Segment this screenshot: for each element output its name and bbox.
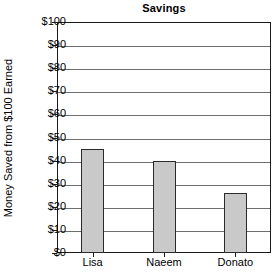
y-axis-tick-label: $80 bbox=[14, 62, 66, 73]
x-axis-tick-label: Donato bbox=[200, 256, 271, 269]
gridline bbox=[58, 139, 270, 140]
y-axis-tick-mark bbox=[52, 230, 57, 231]
bar-chart: Savings Money Saved from $100 Earned $10… bbox=[0, 0, 279, 275]
y-axis-tick-mark bbox=[52, 91, 57, 92]
y-axis-tick-label: $100 bbox=[14, 16, 66, 27]
chart-title: Savings bbox=[57, 1, 271, 15]
x-axis-tick-label: Naeem bbox=[128, 256, 199, 269]
y-axis-tick-mark bbox=[52, 138, 57, 139]
bar bbox=[224, 193, 247, 253]
gridline bbox=[58, 92, 270, 93]
y-axis-tick-mark bbox=[52, 207, 57, 208]
y-axis-tick-mark bbox=[52, 68, 57, 69]
gridline bbox=[58, 46, 270, 47]
y-axis-tick-mark bbox=[52, 45, 57, 46]
gridline bbox=[58, 115, 270, 116]
y-axis-tick-mark bbox=[52, 184, 57, 185]
x-axis-tick-mark bbox=[164, 253, 165, 257]
y-axis-tick-mark bbox=[52, 22, 57, 23]
y-axis-tick-mark bbox=[52, 253, 57, 254]
y-axis-tick-mark bbox=[52, 114, 57, 115]
y-axis-tick-label: $40 bbox=[14, 155, 66, 166]
x-axis-tick-mark bbox=[235, 253, 236, 257]
bar bbox=[81, 149, 104, 253]
y-axis-tick-label: $70 bbox=[14, 85, 66, 96]
y-axis-tick-label: $30 bbox=[14, 178, 66, 189]
x-axis-tick-label: Lisa bbox=[57, 256, 128, 269]
y-axis-title: Money Saved from $100 Earned bbox=[2, 59, 14, 217]
bar bbox=[153, 161, 176, 253]
y-axis-tick-label: $50 bbox=[14, 132, 66, 143]
x-axis-tick-mark bbox=[93, 253, 94, 257]
y-axis-tick-label: $90 bbox=[14, 39, 66, 50]
gridline bbox=[58, 69, 270, 70]
y-axis-tick-label: $60 bbox=[14, 108, 66, 119]
y-axis-tick-label: $20 bbox=[14, 201, 66, 212]
y-axis-tick-label: $10 bbox=[14, 224, 66, 235]
y-axis-tick-mark bbox=[52, 161, 57, 162]
